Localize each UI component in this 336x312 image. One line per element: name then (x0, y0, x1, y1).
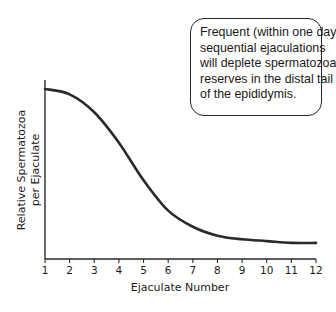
x-tick-label: 10 (260, 264, 273, 276)
x-tick-label: 3 (91, 264, 98, 276)
x-tick-label: 9 (239, 264, 246, 276)
x-tick-label: 5 (140, 264, 147, 276)
x-ticks: 123456789101112 (42, 259, 323, 276)
x-tick-label: 4 (116, 264, 123, 276)
x-axis-title: Ejaculate Number (131, 281, 230, 294)
x-tick-label: 1 (42, 264, 49, 276)
annotation-line: Frequent (within one day) (200, 25, 315, 41)
x-tick-label: 6 (165, 264, 172, 276)
annotation-line: reserves in the distal tail (200, 72, 315, 88)
y-axis-title-line-2: per Ejaculate (29, 134, 42, 207)
x-tick-label: 11 (285, 264, 298, 276)
annotation-callout-box: Frequent (within one day) sequential eja… (190, 18, 322, 116)
y-axis-title-line-1: Relative Spermatozoa (15, 110, 28, 231)
annotation-line: of the epididymis. (200, 87, 315, 103)
x-tick-label: 8 (214, 264, 221, 276)
annotation-line: will deplete spermatozoal (200, 56, 315, 72)
y-axis-title: Relative Spermatozoa per Ejaculate (15, 110, 42, 231)
x-tick-label: 12 (309, 264, 322, 276)
x-tick-label: 2 (66, 264, 73, 276)
x-tick-label: 7 (189, 264, 196, 276)
annotation-line: sequential ejaculations (200, 41, 315, 57)
